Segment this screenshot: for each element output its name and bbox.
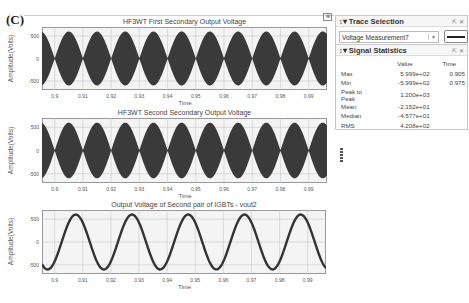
x-tick-label: 0.96 xyxy=(218,277,228,283)
table-row: Max5.999e+020.905 xyxy=(339,69,467,79)
stat-value: 4.208e+02 xyxy=(379,121,432,131)
stat-name: Peak to Peak xyxy=(339,88,379,102)
x-tick-label: 0.91 xyxy=(78,277,88,283)
x-tick-label: 0.93 xyxy=(134,93,144,99)
trace-selection-header: ↕▾ Trace Selection ⇱ ✕ xyxy=(336,16,467,27)
y-tick-label: -500 xyxy=(21,78,39,84)
plot-area[interactable] xyxy=(42,210,326,274)
stat-value: 1.200e+03 xyxy=(379,88,432,102)
x-tick-label: 0.92 xyxy=(106,186,116,192)
x-tick-label: 0.9 xyxy=(51,277,58,283)
line-style-button[interactable] xyxy=(444,30,468,43)
expand-icon[interactable]: ⊞ xyxy=(323,13,332,21)
x-tick-label: 0.99 xyxy=(303,277,313,283)
stat-time xyxy=(432,102,467,112)
signal-statistics-panel: ↕▾ Signal Statistics ⇱ ✕ Value Time Max5… xyxy=(335,44,468,130)
column-header xyxy=(339,59,379,69)
x-tick-label: 0.95 xyxy=(190,277,200,283)
x-tick-label: 0.92 xyxy=(106,277,116,283)
table-header-row: Value Time xyxy=(339,59,467,69)
stat-time xyxy=(432,88,467,102)
x-tick-label: 0.97 xyxy=(247,186,257,192)
table-row: Median-4.577e+01 xyxy=(339,111,467,121)
x-tick-label: 0.99 xyxy=(304,93,314,99)
table-row: RMS4.208e+02 xyxy=(339,121,467,131)
x-tick-label: 0.93 xyxy=(134,186,144,192)
stat-time: 0.905 xyxy=(432,69,467,79)
x-tick-label: 0.9 xyxy=(51,93,58,99)
stat-name: RMS xyxy=(339,121,379,131)
x-tick-label: 0.96 xyxy=(219,186,229,192)
table-row: Min-5.999e+020.975 xyxy=(339,78,467,88)
x-tick-label: 0.92 xyxy=(106,93,116,99)
x-tick-label: 0.94 xyxy=(162,277,172,283)
x-tick-label: 0.94 xyxy=(163,186,173,192)
stat-value: -2.152e+01 xyxy=(379,102,432,112)
column-header-value: Value xyxy=(379,59,432,69)
table-row: Mean-2.152e+01 xyxy=(339,102,467,112)
x-axis-label: Time xyxy=(178,284,191,290)
resize-handle[interactable] xyxy=(340,148,344,163)
collapse-icon[interactable]: ↕▾ xyxy=(339,46,347,55)
signal-statistics-title: Signal Statistics xyxy=(349,46,407,55)
y-axis-label: Amplitude(Volts) xyxy=(7,28,14,88)
plot-title: HF3WT First Secondary Output Voltage xyxy=(123,18,246,25)
panel-controls[interactable]: ⇱ ✕ xyxy=(452,47,464,54)
y-tick-label: 500 xyxy=(21,124,39,130)
stat-name: Max xyxy=(339,69,379,79)
stat-value: -5.999e+02 xyxy=(379,78,432,88)
top-divider xyxy=(24,15,334,16)
y-tick-label: -500 xyxy=(21,262,39,268)
stat-value: -4.577e+01 xyxy=(379,111,432,121)
stat-time: 0.975 xyxy=(432,78,467,88)
y-tick-label: 0 xyxy=(21,56,39,62)
x-tick-label: 0.98 xyxy=(276,186,286,192)
x-tick-label: 0.97 xyxy=(247,93,257,99)
stat-value: 5.999e+02 xyxy=(379,69,432,79)
x-tick-label: 0.95 xyxy=(191,186,201,192)
y-axis-label: Amplitude(Volts) xyxy=(7,120,14,180)
trace-select-value: Voltage Measurement7 xyxy=(342,34,409,41)
plot-area[interactable] xyxy=(42,118,327,183)
x-tick-label: 0.96 xyxy=(219,93,229,99)
statistics-table: Value Time Max5.999e+020.905 Min-5.999e+… xyxy=(339,59,467,130)
stat-name: Mean xyxy=(339,102,379,112)
stat-name: Min xyxy=(339,78,379,88)
y-tick-label: -500 xyxy=(21,171,39,177)
line-style-icon xyxy=(447,36,465,38)
x-tick-label: 0.98 xyxy=(275,277,285,283)
plot-area[interactable] xyxy=(42,27,327,90)
x-tick-label: 0.91 xyxy=(78,93,88,99)
plot-title: Output Voltage of Second pair of IGBTs -… xyxy=(111,201,257,208)
y-tick-label: 0 xyxy=(21,239,39,245)
figure-label: (C) xyxy=(6,12,24,28)
x-tick-label: 0.9 xyxy=(51,186,58,192)
x-tick-label: 0.99 xyxy=(304,186,314,192)
table-row: Peak to Peak1.200e+03 xyxy=(339,88,467,102)
trace-selection-title: Trace Selection xyxy=(349,17,404,26)
y-tick-label: 0 xyxy=(21,148,39,154)
y-tick-label: 500 xyxy=(21,216,39,222)
y-tick-label: 500 xyxy=(21,33,39,39)
x-tick-label: 0.91 xyxy=(78,186,88,192)
stat-time xyxy=(432,111,467,121)
panel-controls[interactable]: ⇱ ✕ xyxy=(452,18,464,25)
trace-selection-panel: ↕▾ Trace Selection ⇱ ✕ Voltage Measureme… xyxy=(335,15,468,47)
column-header-time: Time xyxy=(432,59,467,69)
x-tick-label: 0.94 xyxy=(163,93,173,99)
x-axis-label: Time xyxy=(179,100,192,106)
trace-select-dropdown[interactable]: Voltage Measurement7 ▼ xyxy=(339,31,439,43)
y-axis-label: Amplitude(Volts) xyxy=(7,212,14,272)
x-tick-label: 0.97 xyxy=(247,277,257,283)
x-tick-label: 0.93 xyxy=(134,277,144,283)
x-tick-label: 0.95 xyxy=(191,93,201,99)
x-axis-label: Time xyxy=(179,193,192,199)
stat-name: Median xyxy=(339,111,379,121)
stat-time xyxy=(432,121,467,131)
plot-title: HF3WT Second Secondary Output Voltage xyxy=(118,109,251,116)
signal-statistics-header: ↕▾ Signal Statistics ⇱ ✕ xyxy=(336,45,467,56)
chevron-down-icon[interactable]: ▼ xyxy=(428,34,436,40)
x-tick-label: 0.98 xyxy=(276,93,286,99)
collapse-icon[interactable]: ↕▾ xyxy=(339,17,347,26)
